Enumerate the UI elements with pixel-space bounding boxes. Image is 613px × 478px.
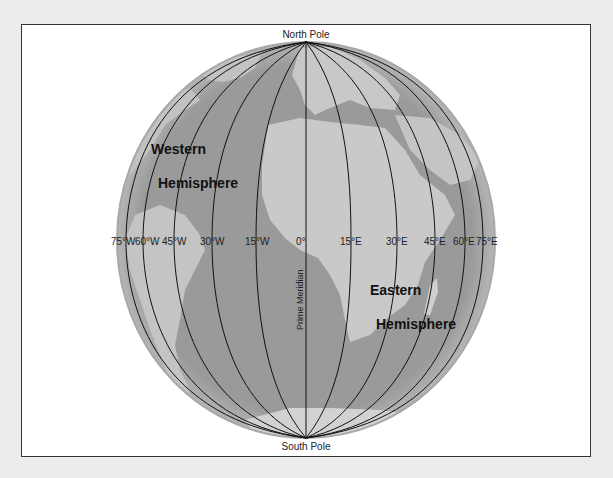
meridian-label-75w: 75°W (111, 236, 136, 247)
meridian-label-75e: 75°E (476, 236, 498, 247)
meridian-label-15w: 15°W (245, 236, 270, 247)
eastern-hemisphere-label-line2: Hemisphere (376, 316, 456, 332)
meridian-label-45w: 45°W (162, 236, 187, 247)
meridian-label-30w: 30°W (200, 236, 225, 247)
eastern-hemisphere-label-line1: Eastern (370, 282, 421, 298)
western-hemisphere-label-line2: Hemisphere (158, 175, 238, 191)
globe-map (0, 0, 613, 478)
western-hemisphere-label-line1: Western (151, 141, 206, 157)
meridian-label-60w: 60°W (135, 236, 160, 247)
meridian-label-45e: 45°E (424, 236, 446, 247)
meridian-label-0: 0° (296, 236, 306, 247)
meridian-label-60e: 60°E (453, 236, 475, 247)
north-pole-label: North Pole (282, 29, 329, 40)
south-pole-label: South Pole (282, 441, 331, 452)
meridian-label-15e: 15°E (340, 236, 362, 247)
prime-meridian-label: Prime Meridian (295, 269, 305, 330)
meridian-label-30e: 30°E (386, 236, 408, 247)
